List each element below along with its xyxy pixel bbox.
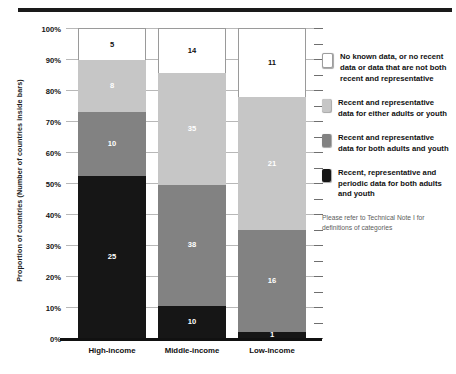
y-tick-label: 90%: [46, 56, 61, 65]
bar-segment[interactable]: 14: [158, 28, 226, 73]
legend-swatch-icon: [322, 53, 333, 68]
y-tick-label: 80%: [46, 87, 61, 96]
bar-segment[interactable]: 10: [78, 112, 146, 176]
legend-item-no-data[interactable]: No known data, or no recent data or data…: [322, 52, 450, 85]
right-tick: [314, 292, 323, 293]
right-tick: [314, 44, 323, 45]
bar-segment-value: 10: [108, 140, 116, 148]
legend-item-periodic[interactable]: Recent, representative and periodic data…: [322, 168, 450, 201]
bar-segment-value: 25: [108, 253, 116, 261]
right-tick: [314, 261, 323, 262]
stacked-bar[interactable]: 1121161: [238, 28, 306, 338]
y-tick-label: 20%: [46, 273, 61, 282]
legend-item-both[interactable]: Recent and representative data for both …: [322, 133, 450, 155]
legend-swatch-icon: [322, 169, 331, 182]
bar-segment-value: 14: [188, 47, 196, 55]
right-tick: [314, 28, 323, 29]
bar-segment[interactable]: 38: [158, 185, 226, 307]
x-category-label: Low-income: [217, 346, 327, 355]
y-tick-label: 60%: [46, 149, 61, 158]
header-rule: [18, 8, 452, 12]
bar-segment-value: 8: [110, 82, 114, 90]
bar-segment-value: 10: [188, 318, 196, 326]
right-tick: [314, 276, 323, 277]
bar-segment-value: 38: [188, 241, 196, 249]
right-tick: [314, 245, 323, 246]
legend-item-label: Recent and representative data for both …: [338, 133, 450, 155]
x-axis-line: [60, 338, 322, 341]
y-tick-label: 30%: [46, 242, 61, 251]
y-tick-label: 10%: [46, 304, 61, 313]
bar-segment[interactable]: 5: [78, 28, 146, 60]
bar-segment[interactable]: 8: [78, 60, 146, 112]
bar-segment[interactable]: 10: [158, 306, 226, 338]
bar-segment-value: 16: [268, 277, 276, 285]
right-tick: [314, 307, 323, 308]
stacked-bar[interactable]: 14353810: [158, 28, 226, 338]
stacked-bar[interactable]: 581025: [78, 28, 146, 338]
bar-segment[interactable]: 21: [238, 97, 306, 230]
cut-off-title: [22, 0, 322, 4]
y-tick-label: 100%: [42, 25, 61, 34]
legend-item-label: Recent and representative data for eithe…: [338, 98, 450, 120]
bar-segment-value: 5: [110, 41, 114, 49]
bar-segment-value: 21: [268, 160, 276, 168]
legend-footnote: Please refer to Technical Note I for def…: [322, 213, 450, 232]
right-tick: [314, 323, 323, 324]
legend-swatch-icon: [322, 134, 331, 147]
chart-figure: Proportion of countries (Number of count…: [0, 0, 456, 374]
bar-segment[interactable]: 35: [158, 73, 226, 185]
bar-segment-value: 11: [268, 59, 276, 67]
bar-segment[interactable]: 16: [238, 230, 306, 331]
y-axis-title: Proportion of countries (Number of count…: [15, 21, 24, 341]
legend-swatch-icon: [322, 99, 331, 112]
bar-segment-value: 35: [188, 125, 196, 133]
legend: No known data, or no recent data or data…: [322, 52, 450, 232]
y-tick-label: 40%: [46, 211, 61, 220]
y-tick-label: 50%: [46, 180, 61, 189]
plot-area: 100%90%80%70%60%50%40%30%20%10%0% 581025…: [66, 28, 314, 338]
y-tick-label: 70%: [46, 118, 61, 127]
legend-item-label: Recent, representative and periodic data…: [338, 168, 450, 201]
legend-item-label: No known data, or no recent data or data…: [340, 52, 450, 85]
legend-item-either[interactable]: Recent and representative data for eithe…: [322, 98, 450, 120]
bar-segment[interactable]: 25: [78, 176, 146, 338]
bar-segment[interactable]: 11: [238, 28, 306, 97]
